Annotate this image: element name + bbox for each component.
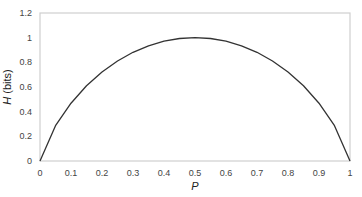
y-tick-label: 1 xyxy=(27,33,32,43)
x-tick-label: 0.7 xyxy=(251,168,264,178)
x-tick-label: 1 xyxy=(347,168,352,178)
x-tick-label: 0.2 xyxy=(96,168,109,178)
x-tick-label: 0.8 xyxy=(282,168,295,178)
plot-frame xyxy=(40,13,350,161)
x-tick-label: 0.6 xyxy=(220,168,233,178)
y-tick-label: 0.4 xyxy=(19,107,32,117)
y-axis-ticks: 00.20.40.60.811.2 xyxy=(19,8,32,166)
x-axis-ticks: 00.10.20.30.40.50.60.70.80.91 xyxy=(37,168,352,178)
x-axis-title: P xyxy=(191,180,199,192)
x-tick-label: 0.1 xyxy=(65,168,78,178)
entropy-curve xyxy=(40,38,350,161)
x-tick-label: 0.9 xyxy=(313,168,326,178)
y-axis-title-symbol: H xyxy=(1,97,13,105)
y-tick-label: 0.2 xyxy=(19,131,32,141)
x-tick-label: 0.4 xyxy=(158,168,171,178)
x-tick-label: 0.5 xyxy=(189,168,202,178)
y-axis-title-unit: (bits) xyxy=(1,69,13,97)
y-tick-label: 1.2 xyxy=(19,8,32,18)
x-tick-label: 0.3 xyxy=(127,168,140,178)
y-tick-label: 0.8 xyxy=(19,57,32,67)
entropy-chart: 00.20.40.60.811.2 00.10.20.30.40.50.60.7… xyxy=(0,0,362,197)
y-tick-label: 0.6 xyxy=(19,82,32,92)
x-tick-label: 0 xyxy=(37,168,42,178)
y-tick-label: 0 xyxy=(27,156,32,166)
y-axis-title: H (bits) xyxy=(1,69,13,104)
